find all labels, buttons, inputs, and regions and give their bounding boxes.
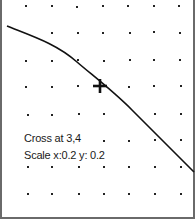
grid-dots [25, 5, 182, 195]
cross-position-label: Cross at 3,4 [24, 132, 81, 144]
scale-label: Scale x:0.2 y: 0.2 [24, 149, 105, 161]
graph-plot [2, 0, 195, 219]
graph-canvas[interactable]: Cross at 3,4 Scale x:0.2 y: 0.2 [0, 0, 195, 219]
crosshair-icon[interactable] [93, 79, 107, 93]
